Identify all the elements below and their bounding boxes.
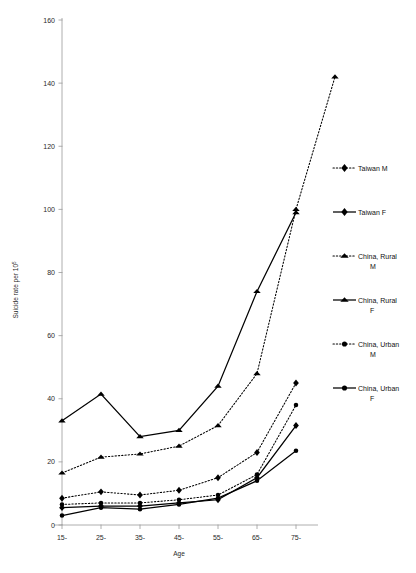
x-axis-title: Age [173, 550, 185, 558]
legend-entry-taiwan-m[interactable]: Taiwan M [333, 164, 388, 172]
legend-label: Taiwan M [358, 165, 388, 172]
y-axis-title-superscript: 5 [12, 261, 17, 264]
x-axis-tick-label: 25- [96, 534, 107, 541]
legend-entry-china-rural-f[interactable]: China, RuralF [333, 297, 397, 314]
data-point-marker-triangle [175, 444, 182, 448]
data-point-marker-diamond [137, 492, 143, 499]
data-point-marker-triangle [58, 470, 65, 474]
data-point-marker-circle [294, 449, 299, 454]
data-point-marker-circle [60, 513, 65, 518]
y-axis-tick-label: 0 [51, 522, 55, 529]
data-point-marker-diamond [341, 208, 347, 216]
y-axis-tick-label: 40 [47, 395, 55, 402]
y-axis-tick-label: 100 [43, 206, 55, 213]
series-china-rural-m [58, 74, 338, 474]
data-point-marker-diamond [254, 449, 260, 456]
legend-label-line2: F [370, 307, 374, 314]
data-point-marker-diamond [215, 474, 221, 481]
suicide-rate-line-chart: 02040608010012014016015-25-35-45-55-65-7… [0, 0, 416, 573]
legend-label: Taiwan F [358, 209, 386, 216]
data-point-marker-triangle [214, 384, 221, 388]
legend-entry-china-urban-m[interactable]: China, UrbanM [333, 341, 399, 358]
y-axis-title-text: Suicide rate per 105 [12, 261, 20, 319]
data-point-marker-triangle [253, 371, 260, 375]
x-axis-tick-label: 75- [291, 534, 302, 541]
data-point-marker-diamond [59, 495, 65, 502]
x-axis-tick-label: 45- [174, 534, 185, 541]
y-axis-title: Suicide rate per 105 [12, 261, 20, 319]
data-point-marker-diamond [293, 379, 299, 386]
data-point-marker-circle [60, 502, 65, 507]
y-axis-tick-label: 20 [47, 458, 55, 465]
legend-label-line2: M [370, 263, 376, 270]
legend-label: China, UrbanF [358, 385, 399, 402]
data-point-marker-circle [177, 497, 182, 502]
data-point-marker-diamond [98, 488, 104, 495]
series-line [62, 213, 296, 437]
legend-entry-china-rural-m[interactable]: China, RuralM [333, 253, 397, 270]
series-china-rural-f [58, 210, 299, 438]
legend-label-line1: China, Rural [358, 297, 397, 304]
y-axis-tick-label: 140 [43, 80, 55, 87]
series-line [62, 77, 335, 473]
x-axis-tick-label: 15- [57, 534, 68, 541]
legend-label-line1: China, Urban [358, 385, 399, 392]
legend-label: China, RuralF [358, 297, 397, 314]
chart-canvas: 02040608010012014016015-25-35-45-55-65-7… [0, 0, 416, 573]
legend-label: China, RuralM [358, 253, 397, 270]
y-axis-tick-label: 80 [47, 269, 55, 276]
data-point-marker-circle [342, 341, 347, 346]
data-point-marker-circle [342, 385, 347, 390]
data-point-marker-circle [138, 501, 143, 506]
data-point-marker-circle [99, 505, 104, 510]
data-point-marker-triangle [331, 74, 338, 78]
y-axis-tick-label: 60 [47, 332, 55, 339]
data-point-marker-circle [294, 403, 299, 408]
y-axis-tick-label: 160 [43, 17, 55, 24]
data-point-marker-circle [255, 472, 260, 477]
legend-entry-china-urban-f[interactable]: China, UrbanF [333, 385, 399, 402]
legend-label-line2: F [370, 395, 374, 402]
x-axis-tick-label: 55- [213, 534, 224, 541]
y-axis-tick-label: 120 [43, 143, 55, 150]
data-point-marker-circle [99, 501, 104, 506]
data-point-marker-triangle [253, 289, 260, 293]
legend-entry-taiwan-f[interactable]: Taiwan F [333, 208, 386, 216]
data-point-marker-triangle [97, 391, 104, 395]
data-point-marker-circle [216, 496, 221, 501]
data-point-marker-triangle [175, 428, 182, 432]
data-point-marker-diamond [341, 164, 347, 172]
data-point-marker-circle [255, 479, 260, 484]
legend-label-line1: China, Rural [358, 253, 397, 260]
data-point-marker-circle [177, 502, 182, 507]
legend-label: China, UrbanM [358, 341, 399, 358]
data-point-marker-triangle [214, 423, 221, 427]
series-line [62, 383, 296, 498]
legend-label-line1: China, Urban [358, 341, 399, 348]
x-axis-tick-label: 35- [135, 534, 146, 541]
data-point-marker-diamond [176, 487, 182, 494]
x-axis-tick-label: 65- [252, 534, 263, 541]
legend-label-line2: M [370, 351, 376, 358]
data-point-marker-circle [138, 507, 143, 512]
